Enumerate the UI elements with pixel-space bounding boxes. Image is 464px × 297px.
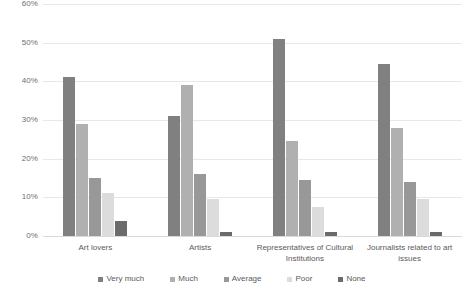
bar-group [43, 0, 148, 240]
legend-swatch-icon [224, 277, 229, 282]
chart-legend: Very muchMuchAveragePoorNone [0, 272, 464, 286]
bar[interactable] [207, 199, 219, 236]
legend-label: Much [178, 275, 198, 283]
bar-group [357, 0, 462, 240]
bar[interactable] [286, 141, 298, 236]
bar[interactable] [115, 221, 127, 236]
bar[interactable] [391, 128, 403, 236]
y-tick-label: 10% [22, 193, 38, 201]
bar-stack [357, 4, 462, 236]
bar-group [148, 0, 253, 240]
legend-swatch-icon [98, 277, 103, 282]
legend-item[interactable]: Very much [98, 275, 144, 283]
x-axis-label: Representatives of Cultural Institutions [253, 240, 358, 274]
legend-label: Poor [295, 275, 312, 283]
bar-stack [43, 4, 148, 236]
bar[interactable] [417, 199, 429, 236]
legend-label: None [346, 275, 365, 283]
bar[interactable] [102, 193, 114, 236]
bar[interactable] [273, 39, 285, 236]
legend-item[interactable]: Average [224, 275, 262, 283]
bar[interactable] [89, 178, 101, 236]
y-tick-label: 50% [22, 39, 38, 47]
bar[interactable] [76, 124, 88, 236]
bar[interactable] [194, 174, 206, 236]
y-tick-label: 0% [26, 232, 38, 240]
bar-groups [43, 0, 462, 240]
legend-swatch-icon [338, 277, 343, 282]
bar[interactable] [63, 77, 75, 236]
bar[interactable] [325, 232, 337, 236]
y-axis: 60%50%40%30%20%10%0% [0, 0, 43, 240]
x-axis-label: Journalists related to art issues [357, 240, 462, 274]
bar[interactable] [430, 232, 442, 236]
bar[interactable] [220, 232, 232, 236]
legend-swatch-icon [287, 277, 292, 282]
bar-chart: 60%50%40%30%20%10%0% Art loversArtistsRe… [0, 0, 464, 297]
bar-stack [148, 4, 253, 236]
plot-area: 60%50%40%30%20%10%0% Art loversArtistsRe… [0, 0, 464, 240]
x-axis-label: Art lovers [43, 240, 148, 274]
legend-item[interactable]: Much [170, 275, 198, 283]
x-axis-label: Artists [148, 240, 253, 274]
legend-item[interactable]: Poor [287, 275, 312, 283]
legend-swatch-icon [170, 277, 175, 282]
y-tick-label: 40% [22, 77, 38, 85]
bar[interactable] [181, 85, 193, 236]
legend-label: Very much [106, 275, 144, 283]
bar[interactable] [312, 207, 324, 236]
bar-group [253, 0, 358, 240]
bar[interactable] [299, 180, 311, 236]
y-tick-label: 30% [22, 116, 38, 124]
bar[interactable] [404, 182, 416, 236]
bar-stack [253, 4, 358, 236]
x-axis-labels: Art loversArtistsRepresentatives of Cult… [43, 240, 462, 274]
y-tick-label: 60% [22, 0, 38, 8]
bar[interactable] [168, 116, 180, 236]
y-tick-label: 20% [22, 155, 38, 163]
legend-item[interactable]: None [338, 275, 365, 283]
legend-label: Average [232, 275, 262, 283]
bar[interactable] [378, 64, 390, 236]
